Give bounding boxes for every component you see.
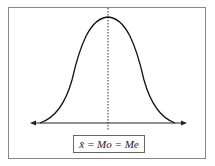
equality-label: x̄ = Mo = Me <box>73 135 145 153</box>
